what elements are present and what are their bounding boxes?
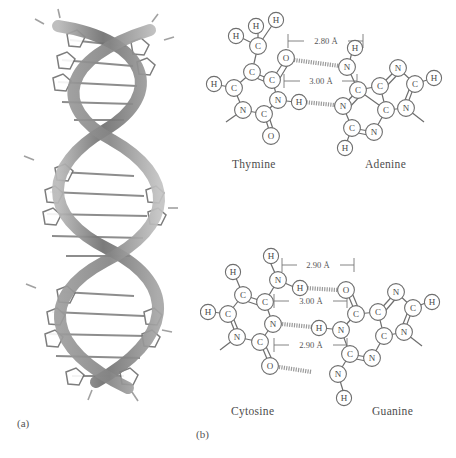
distance-3-00-mid: 3.00 Å — [274, 294, 347, 308]
svg-text:C: C — [257, 337, 263, 347]
base-pair-cytosine-guanine: 2.90 Å 3.00 Å 2.90 Å H N H H C C C H — [200, 232, 456, 412]
svg-text:C: C — [410, 303, 416, 313]
svg-text:C: C — [240, 290, 246, 300]
svg-text:C: C — [347, 349, 353, 359]
svg-text:H: H — [211, 79, 218, 89]
hydrogen-bond-3-00-mid — [282, 324, 312, 327]
label-thymine: Thymine — [232, 158, 276, 170]
svg-text:N: N — [240, 105, 247, 115]
svg-text:C: C — [269, 75, 275, 85]
svg-text:H: H — [230, 267, 237, 277]
distance-2-90-bottom: 2.90 Å — [274, 338, 347, 352]
svg-text:C: C — [225, 309, 231, 319]
svg-text:H: H — [296, 97, 303, 107]
svg-text:C: C — [381, 331, 387, 341]
svg-text:N: N — [371, 127, 378, 137]
distance-label: 3.00 Å — [299, 296, 323, 306]
svg-text:N: N — [234, 332, 241, 342]
hydrogen-bond-3-00 — [304, 102, 334, 105]
svg-text:N: N — [401, 327, 408, 337]
hydrogen-bond-2-90-bottom — [279, 367, 312, 372]
svg-text:N: N — [403, 103, 410, 113]
panel-a-label: (a) — [17, 417, 29, 429]
svg-text:H: H — [316, 323, 323, 333]
svg-text:C: C — [349, 123, 355, 133]
svg-text:C: C — [353, 309, 359, 319]
svg-text:O: O — [268, 131, 275, 141]
svg-text:C: C — [255, 41, 261, 51]
svg-text:N: N — [344, 62, 351, 72]
label-guanine: Guanine — [372, 405, 413, 417]
svg-text:H: H — [341, 393, 348, 403]
hydrogen-bond-2-80 — [294, 60, 340, 66]
svg-text:N: N — [275, 275, 282, 285]
dna-double-helix — [0, 0, 200, 410]
svg-text:H: H — [205, 307, 212, 317]
panel-b-label: (b) — [196, 428, 209, 440]
svg-text:N: N — [395, 63, 402, 73]
svg-text:N: N — [340, 101, 347, 111]
svg-text:C: C — [249, 67, 255, 77]
svg-text:H: H — [268, 251, 275, 261]
svg-text:C: C — [355, 85, 361, 95]
svg-text:H: H — [431, 73, 438, 83]
distance-2-90-top: 2.90 Å — [282, 258, 354, 272]
svg-text:H: H — [297, 283, 304, 293]
svg-text:H: H — [253, 21, 260, 31]
label-adenine: Adenine — [365, 158, 406, 170]
distance-3-00: 3.00 Å — [284, 74, 357, 88]
svg-text:O: O — [283, 53, 290, 63]
thymine-atoms: H H H C C C O C H N C N O H — [206, 12, 306, 144]
svg-text:H: H — [429, 297, 436, 307]
guanine-atoms: O C N H C N N H C N C H N C — [311, 282, 439, 406]
svg-text:N: N — [393, 287, 400, 297]
svg-text:C: C — [375, 307, 381, 317]
distance-label: 3.00 Å — [309, 76, 333, 86]
svg-text:N: N — [338, 325, 345, 335]
svg-text:O: O — [267, 361, 274, 371]
base-pair-thymine-adenine: 2.80 Å 3.00 Å H H H C C C O C H N C N O … — [200, 10, 456, 160]
distance-label: 2.90 Å — [306, 260, 330, 270]
svg-text:C: C — [262, 297, 268, 307]
cytosine-atoms: H N H H C C C H N C N O — [200, 248, 307, 374]
figure-dna-structure-and-base-pairing: (a) — [0, 0, 456, 458]
svg-text:C: C — [231, 83, 237, 93]
svg-text:N: N — [369, 353, 376, 363]
svg-text:C: C — [383, 105, 389, 115]
svg-text:C: C — [377, 81, 383, 91]
svg-text:O: O — [343, 285, 350, 295]
svg-text:H: H — [342, 143, 349, 153]
svg-text:C: C — [261, 109, 267, 119]
svg-text:N: N — [275, 95, 282, 105]
hydrogen-bond-2-90-top — [305, 288, 338, 290]
distance-label: 2.80 Å — [314, 36, 338, 46]
label-cytosine: Cytosine — [231, 405, 274, 417]
svg-text:N: N — [270, 319, 277, 329]
svg-text:N: N — [335, 369, 342, 379]
svg-text:H: H — [273, 15, 280, 25]
svg-text:H: H — [352, 43, 359, 53]
svg-text:H: H — [233, 31, 240, 41]
distance-label: 2.90 Å — [299, 340, 323, 350]
svg-text:C: C — [412, 79, 418, 89]
